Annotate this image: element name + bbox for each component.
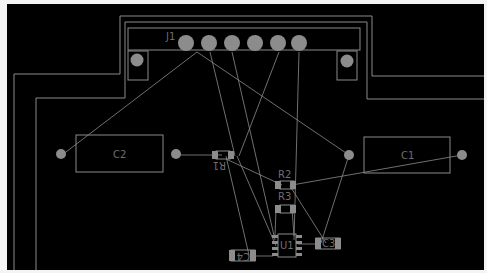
j1-label: J1	[165, 31, 175, 42]
component-r3[interactable]: R3	[275, 191, 296, 213]
r3-label: R3	[278, 191, 291, 202]
c1-label: C1	[401, 150, 414, 161]
component-j1[interactable]: J1	[128, 28, 360, 80]
r2-label: R2	[278, 169, 291, 180]
pcb-canvas[interactable]: J1 C2 C1 R1 R2	[7, 4, 484, 270]
c3-label: C3	[322, 238, 335, 249]
component-c2[interactable]: C2	[56, 135, 181, 172]
component-c1[interactable]: C1	[344, 137, 467, 173]
component-r2[interactable]: R2	[275, 169, 296, 189]
u1-label: U1	[280, 240, 294, 251]
r1-label: R1	[213, 160, 226, 171]
c2-label: C2	[113, 149, 126, 160]
c4-label: C4	[237, 251, 250, 262]
component-c4[interactable]: C4	[229, 250, 256, 262]
component-u1[interactable]: U1	[272, 234, 302, 257]
component-c3[interactable]: C3	[315, 238, 341, 249]
board-outline	[14, 16, 484, 270]
j1-pads	[131, 35, 354, 68]
